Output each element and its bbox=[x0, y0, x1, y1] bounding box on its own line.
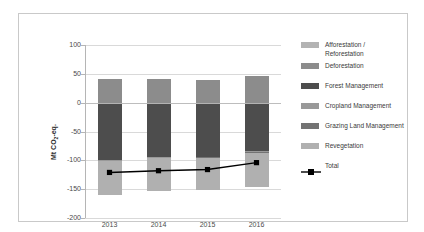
legend-item-label: Deforestation bbox=[325, 61, 424, 70]
y-axis-title: Mt CO2-eq. bbox=[39, 102, 53, 162]
y-axis-tick bbox=[81, 103, 85, 104]
chart-figure: 100500-50-100-150-200 Mt CO2-eq. 2013201… bbox=[0, 0, 424, 232]
y-axis-tick bbox=[81, 160, 85, 161]
legend-item-label: Revegetation bbox=[325, 141, 424, 150]
legend-item[interactable]: Cropland Management bbox=[301, 101, 424, 112]
legend-item-label: Grazing Land Management bbox=[325, 121, 424, 130]
x-axis-tick-labels: 2013201420152016 bbox=[85, 221, 281, 232]
total-line-marker bbox=[107, 170, 112, 175]
legend-swatch bbox=[301, 83, 319, 89]
y-axis-tick-label: -150 bbox=[41, 185, 81, 192]
chart-legend: Afforestation /ReforestationDeforestatio… bbox=[301, 40, 424, 175]
legend-swatch bbox=[301, 63, 319, 69]
legend-swatch bbox=[301, 123, 319, 129]
total-line-series bbox=[85, 45, 281, 218]
total-line-marker bbox=[205, 167, 210, 172]
y-axis-tick bbox=[81, 132, 85, 133]
total-line-marker bbox=[254, 160, 259, 165]
y-axis-tick bbox=[81, 189, 85, 190]
legend-item[interactable]: Forest Management bbox=[301, 81, 424, 92]
legend-swatch bbox=[301, 143, 319, 149]
y-axis-title-text: Mt CO2-eq. bbox=[50, 124, 59, 160]
legend-item-label-line2: Reforestation bbox=[325, 49, 424, 58]
legend-total-label: Total bbox=[325, 161, 424, 170]
y-axis-tick bbox=[81, 45, 85, 46]
legend-swatch bbox=[301, 103, 319, 109]
y-axis-tick-label: 50 bbox=[41, 70, 81, 77]
legend-item[interactable]: Grazing Land Management bbox=[301, 121, 424, 132]
gridline bbox=[85, 218, 281, 219]
legend-item-label: Forest Management bbox=[325, 81, 424, 90]
total-line-path bbox=[110, 163, 257, 173]
total-line-marker bbox=[156, 168, 161, 173]
chart-frame: 100500-50-100-150-200 Mt CO2-eq. 2013201… bbox=[18, 13, 408, 222]
x-axis-tick-label: 2014 bbox=[135, 221, 183, 228]
legend-total-line-marker bbox=[301, 162, 321, 170]
legend-item-total[interactable]: Total bbox=[301, 161, 424, 172]
legend-item[interactable]: Revegetation bbox=[301, 141, 424, 152]
legend-item-label: Cropland Management bbox=[325, 101, 424, 110]
plot-area bbox=[85, 45, 281, 218]
legend-item[interactable]: Deforestation bbox=[301, 61, 424, 72]
y-axis-tick-label: 100 bbox=[41, 41, 81, 48]
x-axis-tick-label: 2015 bbox=[184, 221, 232, 228]
y-axis-tick bbox=[81, 74, 85, 75]
legend-item-label: Afforestation / bbox=[325, 40, 424, 49]
x-axis-tick-label: 2013 bbox=[86, 221, 134, 228]
legend-swatch bbox=[301, 42, 319, 48]
legend-item[interactable]: Afforestation /Reforestation bbox=[301, 40, 424, 58]
x-axis-tick-label: 2016 bbox=[233, 221, 281, 228]
y-axis-tick-label: -200 bbox=[41, 214, 81, 221]
y-axis-tick bbox=[81, 218, 85, 219]
